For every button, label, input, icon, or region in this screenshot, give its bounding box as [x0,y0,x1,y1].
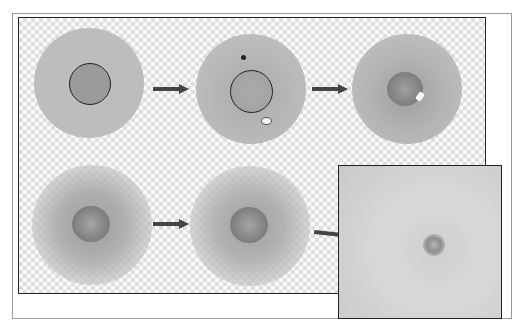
healed-photo-inset [338,165,502,319]
healed-spot [423,234,445,256]
arrow-right-icon [153,86,189,92]
step-2-white-marker [261,117,272,125]
arrow-right-icon [312,86,348,92]
step-5-lesion [230,207,268,243]
arrow-right-icon [153,221,189,227]
step-2-dark-dot [241,55,246,60]
step-2-inner-circle [230,70,273,113]
step-1-inner-circle [69,63,111,105]
step-4-lesion [72,206,110,242]
